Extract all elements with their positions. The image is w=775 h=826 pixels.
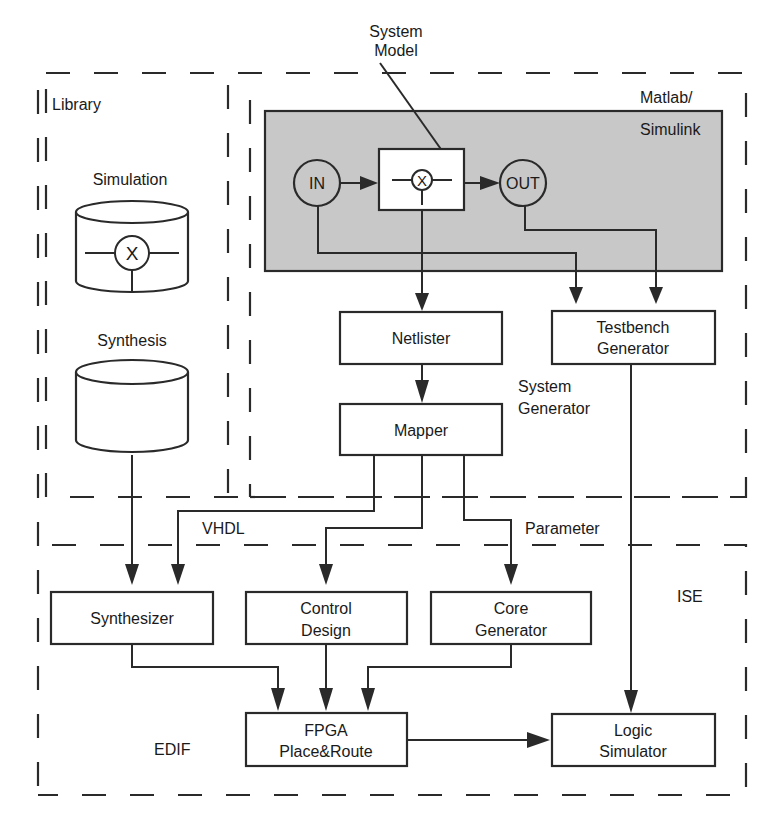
wire-mapper-parameter-to-core-generator <box>464 455 511 567</box>
synthesizer-block: Synthesizer <box>51 592 213 644</box>
wire-synthesizer-to-fpga <box>132 644 278 690</box>
netlister-block: Netlister <box>340 312 502 364</box>
control-design-block: Control Design <box>246 592 407 644</box>
fpga-design-flow-diagram: Library Matlab/ ISE System Generator Sim… <box>0 0 775 826</box>
simulink-multiplier-block: X <box>379 149 464 210</box>
svg-text:Logic: Logic <box>614 722 652 739</box>
logic-simulator-block: Logic Simulator <box>552 714 715 766</box>
svg-text:Place&Route: Place&Route <box>279 743 372 760</box>
simulink-out-port: OUT <box>500 160 546 206</box>
simulation-library-cylinder: X <box>76 201 188 292</box>
edif-signal-label: EDIF <box>154 741 191 758</box>
wire-core-generator-to-fpga <box>368 644 511 690</box>
system-generator-label-line1: System <box>518 378 571 395</box>
arrow-netlister-to-mapper <box>415 380 429 403</box>
simulink-in-port: IN <box>294 160 340 206</box>
matlab-region-label: Matlab/ <box>640 89 693 106</box>
svg-text:Mapper: Mapper <box>394 422 449 439</box>
library-region-label: Library <box>52 96 101 113</box>
mapper-block: Mapper <box>340 404 502 455</box>
vhdl-signal-label: VHDL <box>202 520 245 537</box>
fpga-place-route-block: FPGA Place&Route <box>246 713 407 766</box>
simulink-region-label: Simulink <box>640 121 701 138</box>
parameter-signal-label: Parameter <box>525 520 600 537</box>
svg-text:Netlister: Netlister <box>392 330 451 347</box>
system-model-callout-line1: System <box>369 23 422 40</box>
svg-text:X: X <box>126 243 139 264</box>
svg-text:Generator: Generator <box>597 340 670 357</box>
ise-region-label: ISE <box>677 588 703 605</box>
synthesis-library-label: Synthesis <box>97 332 166 349</box>
svg-text:IN: IN <box>309 175 325 192</box>
svg-text:FPGA: FPGA <box>304 722 348 739</box>
system-generator-label-line2: Generator <box>518 400 591 417</box>
svg-text:Generator: Generator <box>475 622 548 639</box>
arrow-fpga-to-logic-simulator <box>527 732 550 748</box>
svg-text:Core: Core <box>494 600 529 617</box>
svg-text:Synthesizer: Synthesizer <box>90 610 174 627</box>
svg-text:X: X <box>417 172 427 189</box>
svg-text:Control: Control <box>300 600 352 617</box>
svg-text:Simulator: Simulator <box>599 743 667 760</box>
svg-text:OUT: OUT <box>506 175 540 192</box>
testbench-generator-block: Testbench Generator <box>552 311 715 364</box>
wire-mapper-vhdl-to-synthesizer <box>178 455 374 567</box>
simulation-library-label: Simulation <box>93 171 168 188</box>
system-model-callout-line2: Model <box>374 42 418 59</box>
svg-text:Testbench: Testbench <box>597 319 670 336</box>
core-generator-block: Core Generator <box>431 592 591 644</box>
svg-text:Design: Design <box>301 622 351 639</box>
synthesis-library-cylinder <box>76 360 188 452</box>
